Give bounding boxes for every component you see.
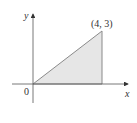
diagram: x y 0 (4, 3): [0, 0, 137, 123]
point-label: (4, 3): [91, 18, 113, 30]
shaded-triangle-region: [33, 31, 102, 84]
y-axis-label: y: [23, 10, 29, 21]
origin-label: 0: [24, 86, 29, 97]
x-axis-label: x: [124, 88, 130, 99]
